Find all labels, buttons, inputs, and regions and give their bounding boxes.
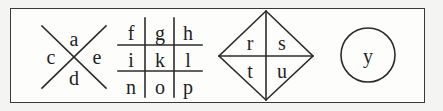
letter-r: r: [247, 32, 254, 54]
letter-h: h: [183, 22, 193, 44]
letter-p: p: [183, 76, 193, 99]
letter-d: d: [69, 67, 79, 89]
tic-tac-toe-grid-shape: f g h i k l n o p: [115, 16, 205, 98]
x-cross-shape: a c e d: [38, 22, 110, 92]
letter-k: k: [155, 49, 165, 71]
letter-e: e: [93, 46, 102, 68]
circle-svg: y: [337, 24, 399, 86]
letter-y: y: [363, 45, 373, 68]
letter-a: a: [70, 28, 79, 50]
diamond-svg: r s t u: [216, 8, 316, 103]
letter-n: n: [126, 76, 136, 98]
diamond-shape: r s t u: [216, 8, 316, 103]
letter-u: u: [277, 60, 287, 82]
letter-s: s: [278, 32, 286, 54]
cipher-figure: a c e d f g h i k l n o p r: [0, 0, 443, 111]
letter-i: i: [128, 49, 134, 71]
letter-t: t: [247, 60, 253, 82]
letter-o: o: [155, 76, 165, 98]
letter-l: l: [185, 49, 191, 71]
x-cross-svg: a c e d: [38, 22, 110, 92]
letter-c: c: [47, 46, 56, 68]
letter-g: g: [155, 22, 165, 45]
letter-f: f: [128, 22, 135, 44]
grid-svg: f g h i k l n o p: [115, 16, 205, 98]
circle-shape: y: [337, 24, 399, 86]
